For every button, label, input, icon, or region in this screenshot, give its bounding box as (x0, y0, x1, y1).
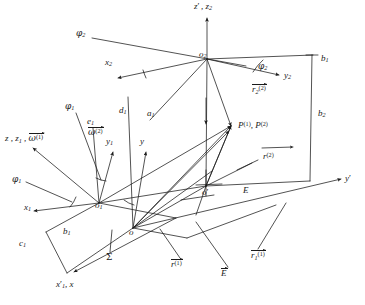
vector-label-r-1: r(1) (171, 259, 182, 269)
segment-label-e1: e1 (87, 117, 94, 127)
segment-label-d1: d1 (119, 106, 127, 116)
origin-label-o-prime: o′ (202, 188, 208, 197)
e-plane-edge-c (187, 205, 276, 238)
leader-r2-b (206, 163, 252, 186)
axis-y2 (207, 59, 279, 75)
arc-phi1-left (70, 197, 76, 207)
axis-y1 (99, 152, 113, 203)
vector-label-r1-1: r1(1) (251, 250, 265, 261)
leader-r1 (160, 229, 180, 258)
angle-label-phi2-top: φ2 (76, 29, 85, 39)
segment-label-a1: a1 (147, 109, 155, 119)
axis-z-z1-omega1 (33, 148, 99, 203)
leader-phi1-left (26, 182, 72, 202)
vector-label-r2-2: r2(2) (252, 84, 266, 95)
axis-x1 (34, 203, 99, 211)
plane-label-E: E (243, 186, 249, 195)
angle-label-phi2-arc: φ2 (258, 62, 267, 72)
glyph-arrow-r2 (262, 147, 293, 148)
axis-label-y2: y2 (284, 71, 291, 81)
axis-label-y: y (140, 137, 144, 146)
sigma-edge-bottom-left (46, 232, 67, 273)
axis-label-x2: x2 (105, 58, 112, 68)
axis-label-z2: z′ , z2 (194, 2, 212, 12)
segment-label-b1-right: b1 (321, 54, 329, 64)
vector-r-2 (206, 126, 231, 186)
line-b2-vertical (310, 55, 312, 181)
angle-label-phi1-left: φ1 (12, 175, 21, 185)
axis-label-x1: x1 (24, 203, 31, 213)
vector-label-omega2: ω(2) (88, 127, 103, 137)
strut-a1 (150, 59, 207, 120)
origin-label-o1: o1 (95, 201, 103, 211)
sigma-edge-left (46, 203, 99, 232)
arc-x2 (143, 70, 146, 78)
leader-sigma (110, 230, 112, 252)
axis-label-y1: y1 (106, 137, 113, 147)
origin-label-o2: o2 (199, 50, 207, 60)
axis-x2 (118, 59, 207, 78)
diagram-linework (0, 0, 365, 305)
diagram-canvas: z′ , z2 x2 y2 z , z1 , ω(1) x1 y1 y x′1,… (0, 0, 365, 305)
line-b1-top (207, 55, 313, 59)
vector-E (133, 131, 229, 228)
angle-label-phi1-top: φ1 (65, 102, 74, 112)
segment-label-b2-right: b2 (318, 109, 326, 119)
leader-phi2-top (92, 38, 246, 66)
connector-2 (99, 186, 206, 203)
plane-label-Sigma: Σ (106, 253, 112, 262)
axis-label-x-prime1-x: x′1, x (56, 280, 74, 290)
segment-label-b1-left: b1 (63, 227, 71, 237)
axis-label-z-z1-omega1: z , z1 , ω(1) (5, 133, 43, 144)
vector-label-r-2: r(2) (263, 152, 274, 161)
sigma-edge-bottom (67, 228, 133, 273)
point-label-P: P(1), P(2) (238, 121, 268, 130)
vector-r2-2 (207, 59, 231, 126)
vector-label-E: E (221, 268, 227, 278)
strut-e1 (93, 128, 99, 203)
segment-label-c1: c1 (19, 239, 26, 249)
origin-label-o: o (129, 228, 134, 237)
axis-x-prime1-x (74, 218, 176, 272)
e-plane-edge-b (206, 181, 310, 186)
vector-r1-1 (99, 126, 231, 203)
arc-o (124, 200, 134, 205)
axis-y-prime (133, 179, 341, 228)
axis-label-y-prime: y′ (345, 174, 351, 183)
strut-d1 (128, 97, 133, 228)
